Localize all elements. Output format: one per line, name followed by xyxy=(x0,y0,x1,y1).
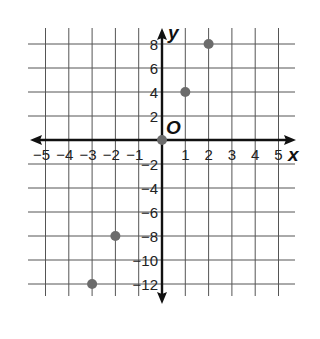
data-point xyxy=(87,279,97,289)
x-tick-label: 3 xyxy=(228,146,236,163)
x-tick-label: −3 xyxy=(80,146,97,163)
y-tick-label: 2 xyxy=(150,108,158,125)
y-tick-label: 8 xyxy=(150,36,158,53)
y-tick-label: −8 xyxy=(141,228,158,245)
data-point xyxy=(180,87,190,97)
y-tick-label: −10 xyxy=(133,252,158,269)
y-tick-label: −2 xyxy=(141,156,158,173)
y-tick-label: −4 xyxy=(141,180,158,197)
x-tick-label: −2 xyxy=(103,146,120,163)
y-tick-label: −6 xyxy=(141,204,158,221)
x-axis-label: x xyxy=(287,144,300,165)
y-tick-label: 6 xyxy=(150,60,158,77)
data-point xyxy=(204,39,214,49)
y-axis-label: y xyxy=(167,22,180,43)
x-tick-label: 5 xyxy=(274,146,282,163)
y-tick-label: 4 xyxy=(150,84,158,101)
x-tick-label: 4 xyxy=(251,146,259,163)
x-tick-label: −4 xyxy=(56,146,73,163)
origin-label: O xyxy=(166,117,181,138)
data-point xyxy=(110,231,120,241)
axes xyxy=(30,28,296,304)
x-tick-label: −5 xyxy=(33,146,50,163)
coordinate-plane: −5−4−3−2−1123458642−2−4−6−8−10−12 x y O xyxy=(0,0,320,339)
y-tick-label: −12 xyxy=(133,276,158,293)
x-tick-label: 1 xyxy=(181,146,189,163)
x-tick-label: 2 xyxy=(204,146,212,163)
